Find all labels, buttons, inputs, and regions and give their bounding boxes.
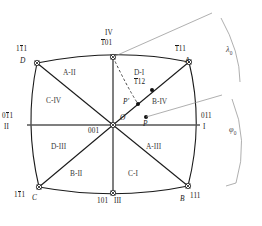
miller-digit-barred: 1 — [101, 40, 105, 47]
miller-digit-tail: 1 — [21, 191, 25, 199]
miller-digit-tail: 12 — [138, 78, 145, 86]
figure-canvas — [0, 0, 262, 226]
angle-arcs — [221, 18, 242, 186]
pole-label-top-roman: IV — [105, 30, 113, 37]
miller-digit-barred: 1 — [175, 46, 179, 53]
pole-label-bottom-roman: III — [114, 198, 121, 205]
pole-marker-bottom-right — [185, 183, 190, 188]
pole-label-top-left-miller: 111 — [16, 46, 27, 53]
point-label-p: P — [143, 120, 148, 127]
miller-digit-tail: 1 — [23, 45, 27, 53]
region-label-d-iii: D-III — [51, 143, 66, 150]
angle-label-phi: φ0 — [229, 126, 236, 136]
origin-label: O — [120, 114, 125, 121]
miller-digit-barred: 1 — [20, 46, 24, 53]
pole-label-bottom-left-letter: C — [32, 194, 37, 201]
miller-digit-tail: 1 — [9, 112, 13, 120]
region-label-a-iii: A-III — [146, 143, 161, 150]
pole-marker-center — [110, 122, 115, 127]
point-label-p-prime: P' — [123, 98, 129, 105]
pole-marker-bottom — [110, 190, 115, 195]
arc-right — [188, 62, 196, 186]
pole-label-top-right-letter: A — [185, 57, 190, 64]
pole-label-bottom-right-miller: 111 — [190, 193, 201, 200]
pole-label-bottom-right-letter: B — [180, 195, 185, 202]
miller-digit-barred: 1 — [6, 113, 10, 120]
pole-label-bottom-left-miller: 111 — [14, 192, 25, 199]
pole-label-right-miller: 011 — [201, 113, 212, 120]
pole-marker-top-left — [34, 60, 39, 65]
miller-digit-tail: 11 — [179, 45, 186, 53]
region-label-c-i: C-I — [128, 170, 138, 177]
arc-phi-terminator — [226, 183, 236, 186]
diagonal-se — [113, 125, 188, 186]
miller-digit-tail: 01 — [105, 39, 112, 47]
pole-label-top-miller: 101 — [101, 40, 112, 47]
region-label-b-ii: B-II — [70, 170, 82, 177]
pole-label-top-right-miller: 111 — [175, 46, 186, 53]
arc-phi — [232, 99, 242, 183]
point-112-marker — [150, 88, 154, 92]
point-label-d1-region: D-I — [134, 69, 144, 76]
angle-label-lambda: λ0 — [226, 46, 232, 56]
pole-label-left-miller: 011 — [2, 113, 13, 120]
angle-leader-lines — [113, 13, 222, 117]
lambda-subscript: 0 — [230, 50, 233, 56]
pole-label-right-roman: I — [203, 124, 205, 131]
pole-label-left-roman: II — [4, 124, 9, 131]
leader-lambda — [113, 13, 212, 57]
miller-digit-barred: 1 — [18, 192, 22, 199]
pole-label-center-miller: 001 — [88, 128, 99, 135]
region-label-a-ii: A-II — [63, 69, 76, 76]
point-p-prime-marker — [136, 102, 140, 106]
phi-subscript: 0 — [234, 130, 237, 136]
pole-marker-bottom-left — [36, 184, 41, 189]
miller-digit-barred: 1 — [134, 79, 138, 86]
stereographic-projection-figure: 111 D IV 101 111 A 011 II 011 I 111 C 10… — [0, 0, 262, 226]
pole-label-bottom-miller: 101 — [97, 198, 108, 205]
region-label-c-iv: C-IV — [46, 97, 61, 104]
region-label-b-iv: B-IV — [152, 98, 167, 105]
point-label-112-miller: 112 — [134, 79, 145, 86]
pole-label-top-left-letter: D — [20, 57, 25, 64]
